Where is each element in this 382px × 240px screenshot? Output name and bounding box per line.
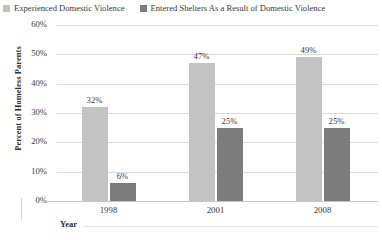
x-axis-title-rule: [84, 226, 378, 227]
y-axis-tick-label: 0%: [7, 195, 47, 205]
bar-2001-series1[interactable]: [189, 63, 215, 201]
bar-2008-series1[interactable]: [296, 57, 322, 201]
y-axis-tick-label: 20%: [7, 136, 47, 146]
x-axis-tick-label-1998: 1998: [79, 205, 139, 215]
axis-corner-rule: [21, 198, 22, 220]
y-axis-tick-label: 60%: [7, 19, 47, 29]
bar-value-label: 25%: [317, 116, 357, 126]
bar-group-2001: 47%25%: [164, 25, 271, 201]
legend-item-label: Entered Shelters As a Result of Domestic…: [151, 3, 326, 13]
bar-1998-series1[interactable]: [82, 107, 108, 201]
y-axis-tick-label: 50%: [7, 48, 47, 58]
bar-group-2008: 49%25%: [271, 25, 378, 201]
bar-group-1998: 32%6%: [57, 25, 164, 201]
y-axis-tick-label: 10%: [7, 166, 47, 176]
bar-2001-series2[interactable]: [217, 128, 243, 201]
x-axis-tick-label-2008: 2008: [293, 205, 353, 215]
x-axis-tick-label-2001: 2001: [186, 205, 246, 215]
legend-swatch-icon: [140, 5, 147, 12]
bar-value-label: 25%: [210, 116, 250, 126]
bar-value-label: 49%: [289, 45, 329, 55]
bar-1998-series2[interactable]: [110, 183, 136, 201]
y-axis-tick-label: 30%: [7, 107, 47, 117]
bar-value-label: 32%: [75, 95, 115, 105]
chart-legend: Experienced Domestic Violence Entered Sh…: [0, 1, 382, 15]
bar-series-container: 32%6%47%25%49%25%: [57, 25, 378, 201]
bar-chart: Percent of Homeless Parents 0%10%20%30%4…: [0, 16, 382, 240]
bar-2008-series2[interactable]: [324, 128, 350, 201]
legend-item-experienced-domestic-violence: Experienced Domestic Violence: [3, 3, 125, 13]
plot-area: 0%10%20%30%40%50%60% 32%6%47%25%49%25%: [57, 25, 378, 201]
bar-value-label: 47%: [182, 51, 222, 61]
legend-item-label: Experienced Domestic Violence: [14, 3, 125, 13]
x-axis-line: [46, 201, 378, 202]
legend-swatch-icon: [3, 5, 10, 12]
legend-item-entered-shelters: Entered Shelters As a Result of Domestic…: [140, 3, 326, 13]
bar-value-label: 6%: [103, 171, 143, 181]
y-axis-tick-label: 40%: [7, 78, 47, 88]
x-axis-title: Year: [60, 219, 77, 229]
